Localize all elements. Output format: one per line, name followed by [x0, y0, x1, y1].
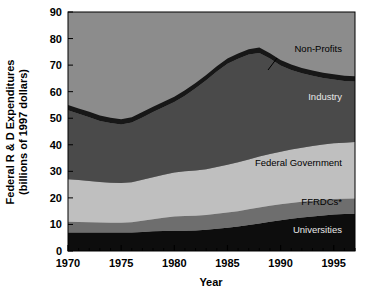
x-tick-label-1980: 1980 — [162, 257, 186, 269]
y-axis-tick-labels: 0102030405060708090 — [50, 6, 62, 257]
y-tick-label-10: 10 — [50, 218, 62, 230]
chart-container: 0102030405060708090 19701975198019851990… — [0, 0, 374, 294]
y-tick-label-30: 30 — [50, 165, 62, 177]
x-tick-label-1985: 1985 — [215, 257, 239, 269]
x-tick-label-1990: 1990 — [268, 257, 292, 269]
series-label-non-profits: Non-Profits — [294, 43, 342, 54]
x-tick-label-1995: 1995 — [321, 257, 345, 269]
x-axis-title: Year — [199, 276, 223, 288]
stacked-area-chart: 0102030405060708090 19701975198019851990… — [0, 0, 374, 294]
x-tick-label-1975: 1975 — [109, 257, 133, 269]
y-tick-label-40: 40 — [50, 139, 62, 151]
x-axis-tick-labels: 197019751980198519901995 — [56, 257, 346, 269]
y-tick-label-90: 90 — [50, 6, 62, 18]
series-label-industry: Industry — [308, 91, 342, 102]
y-axis-title-line2: (billions of 1997 dollars) — [17, 69, 29, 195]
y-tick-label-80: 80 — [50, 33, 62, 45]
series-label-universities: Universities — [293, 224, 342, 235]
y-tick-label-50: 50 — [50, 112, 62, 124]
series-label-federal-government: Federal Government — [255, 157, 342, 168]
y-tick-label-0: 0 — [56, 245, 62, 257]
y-tick-label-60: 60 — [50, 86, 62, 98]
y-axis-title-line1: Federal R & D Expenditures — [4, 60, 16, 205]
y-tick-label-70: 70 — [50, 59, 62, 71]
x-tick-label-1970: 1970 — [56, 257, 80, 269]
y-tick-label-20: 20 — [50, 192, 62, 204]
series-label-ffrdcs: FFRDCs* — [301, 196, 342, 207]
